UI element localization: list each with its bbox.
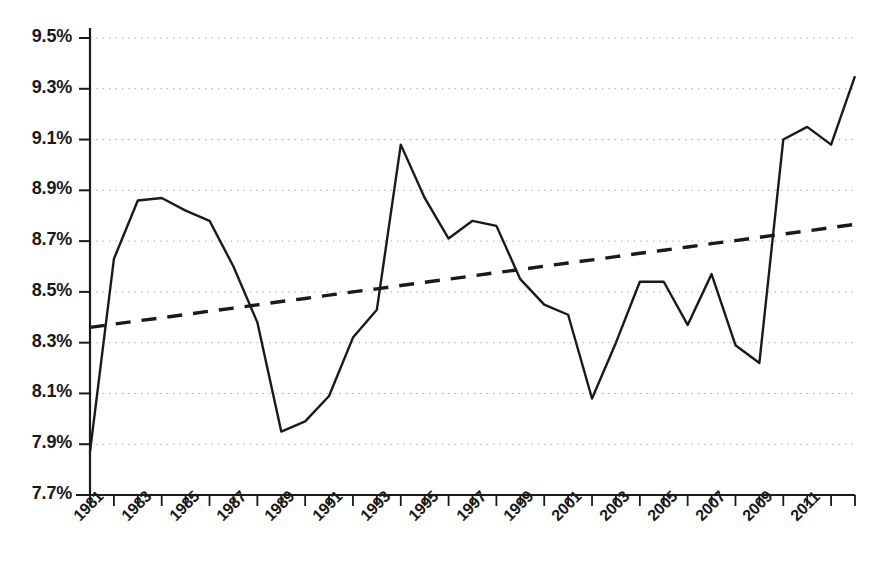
- y-axis-tick-label: 9.1%: [0, 128, 72, 149]
- axes-group: [76, 28, 855, 495]
- chart-container: 9.5%9.3%9.1%8.9%8.7%8.5%8.3%8.1%7.9%7.7%…: [0, 0, 882, 582]
- y-axis-tick-label: 9.3%: [0, 77, 72, 98]
- y-axis-tick-label: 8.7%: [0, 229, 72, 250]
- data-series-group: [90, 76, 855, 452]
- y-axis-tick-label: 9.5%: [0, 26, 72, 47]
- data-line-series: [90, 76, 855, 452]
- gridlines-group: [90, 38, 855, 495]
- chart-plot-area: [0, 0, 882, 582]
- y-axis-tick-label: 8.1%: [0, 381, 72, 402]
- y-axis-tick-label: 8.5%: [0, 280, 72, 301]
- y-axis-tick-label: 7.9%: [0, 432, 72, 453]
- trendline-series: [90, 224, 855, 327]
- y-tick-marks-group: [79, 38, 90, 495]
- y-axis-tick-label: 7.7%: [0, 483, 72, 504]
- y-axis-tick-label: 8.3%: [0, 331, 72, 352]
- y-axis-tick-label: 8.9%: [0, 178, 72, 199]
